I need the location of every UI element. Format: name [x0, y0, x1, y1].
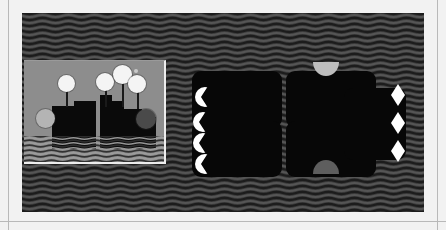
composition-canvas — [0, 0, 446, 230]
white-circle-center — [96, 73, 114, 91]
white-circle-left — [58, 75, 75, 92]
inset-wave-pattern-icon — [24, 136, 164, 162]
frame-line-bottom — [0, 221, 446, 222]
tiny-dot — [134, 69, 138, 73]
card-top-left[interactable] — [192, 71, 282, 128]
gray-circle — [36, 109, 55, 128]
white-circle-right — [128, 75, 146, 93]
dark-circle — [136, 109, 156, 129]
card-bottom-left[interactable] — [192, 121, 282, 177]
inset-panel[interactable] — [24, 60, 166, 164]
frame-line-left — [8, 0, 9, 230]
frame-line-right — [437, 0, 438, 230]
